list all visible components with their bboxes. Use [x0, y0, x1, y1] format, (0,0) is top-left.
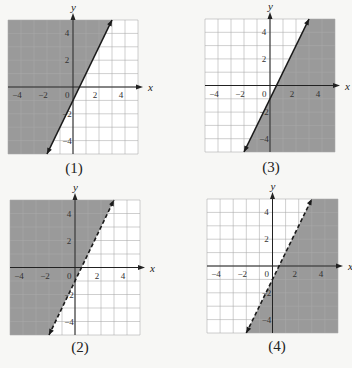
x-tick-label: 0	[65, 90, 70, 100]
x-tick-label: −4	[14, 271, 24, 281]
x-tick-label: 0	[67, 271, 72, 281]
caption-1: (1)	[54, 160, 94, 177]
x-tick-label: 4	[319, 269, 324, 279]
x-axis-arrow-icon	[333, 83, 340, 88]
x-tick-label: 2	[290, 89, 295, 99]
y-tick-label: −2	[262, 288, 272, 298]
x-tick-label: 4	[316, 89, 321, 99]
y-tick-label: 2	[65, 55, 70, 65]
y-axis-label: y	[70, 1, 76, 13]
x-tick-label: −4	[209, 89, 219, 99]
y-tick-label: −4	[259, 134, 269, 144]
graph-3: xy−4−202442−2−4	[205, 19, 335, 152]
x-tick-label: −4	[12, 90, 22, 100]
x-tick-label: −2	[38, 90, 48, 100]
y-tick-label: −4	[262, 315, 272, 325]
x-tick-label: −4	[211, 269, 221, 279]
x-axis-label: x	[344, 80, 350, 92]
x-tick-label: 4	[121, 271, 126, 281]
x-tick-label: −2	[235, 89, 245, 99]
x-axis-label: x	[347, 260, 352, 272]
y-tick-label: −2	[64, 290, 74, 300]
y-axis-label: y	[267, 0, 273, 12]
x-tick-label: 2	[93, 90, 98, 100]
y-tick-label: −4	[62, 136, 72, 146]
y-tick-label: 4	[67, 209, 72, 219]
caption-3: (3)	[251, 159, 291, 176]
y-axis-arrow-icon	[268, 12, 273, 19]
graph-4: xy−4−202442−2−4	[207, 199, 338, 333]
y-tick-label: 2	[262, 54, 267, 64]
y-axis-arrow-icon	[71, 13, 76, 20]
graph-1: xy−4−202442−2−4	[8, 20, 138, 154]
y-tick-label: 4	[264, 207, 269, 217]
y-tick-label: 4	[262, 27, 267, 37]
y-tick-label: 2	[67, 236, 72, 246]
x-axis-arrow-icon	[336, 264, 343, 269]
caption-2: (2)	[60, 339, 100, 356]
graph-2: xy−4−202442−2−4	[10, 200, 140, 335]
x-tick-label: 2	[292, 269, 297, 279]
x-tick-label: −2	[40, 271, 50, 281]
y-tick-label: −4	[64, 317, 74, 327]
y-tick-label: 2	[264, 234, 269, 244]
x-tick-label: 0	[265, 269, 270, 279]
x-tick-label: 4	[119, 90, 124, 100]
x-tick-label: 0	[262, 89, 267, 99]
y-axis-label: y	[72, 181, 78, 193]
x-tick-label: 2	[95, 271, 100, 281]
x-axis-arrow-icon	[136, 85, 143, 90]
x-tick-label: −2	[238, 269, 248, 279]
x-axis-label: x	[149, 262, 155, 274]
x-axis-label: x	[147, 81, 153, 93]
caption-4: (4)	[257, 338, 297, 355]
y-axis-arrow-icon	[73, 193, 78, 200]
y-tick-label: 4	[65, 28, 70, 38]
y-axis-label: y	[270, 180, 276, 192]
x-axis-arrow-icon	[138, 265, 145, 270]
y-axis-arrow-icon	[270, 192, 275, 199]
